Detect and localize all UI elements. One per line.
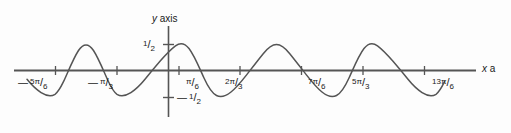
x-tick-6-numerator: 13π (432, 77, 446, 86)
x-tick-1-numerator: π (100, 77, 106, 86)
x-tick-label-13pi-6: 13π/6 (432, 77, 454, 88)
x-tick-5-denominator: 3 (365, 82, 369, 91)
x-tick-4-numerator: 7π (308, 77, 318, 86)
x-tick-label-5pi-3: 5π/3 (352, 77, 369, 88)
sine-wave-figure: y axis x a 1/2 — 1/2 — 5π/6 — π/3 π/6 2π… (0, 0, 511, 133)
y-tick-label-positive-half: 1/2 (143, 39, 155, 50)
y-tick-positive-numerator: 1 (143, 39, 147, 48)
x-tick-label-7pi-6: 7π/6 (308, 77, 325, 88)
y-tick-label-negative-half: — 1/2 (177, 92, 201, 103)
x-tick-6-denominator: 6 (449, 82, 453, 91)
x-tick-2-numerator: π (186, 77, 192, 86)
x-tick-label-2pi-3: 2π/3 (225, 77, 242, 88)
x-tick-label-minus-pi-3: — π/3 (88, 77, 113, 88)
y-axis-title-text: axis (157, 13, 178, 24)
x-axis-title-text: a (487, 63, 495, 74)
y-tick-negative-sign: — (177, 92, 187, 103)
x-tick-0-denominator: 6 (43, 82, 47, 91)
x-axis-title: x a (482, 64, 495, 74)
plot-canvas (0, 0, 511, 133)
y-tick-positive-denominator: 2 (151, 44, 155, 53)
x-tick-1-sign: — (88, 77, 98, 88)
x-tick-2-denominator: 6 (195, 82, 199, 91)
x-tick-0-sign: — (18, 77, 28, 88)
x-tick-label-pi-6: π/6 (186, 77, 199, 88)
x-tick-5-numerator: 5π (352, 77, 362, 86)
x-tick-0-numerator: 5π (30, 77, 40, 86)
x-tick-4-denominator: 6 (321, 82, 325, 91)
y-tick-negative-numerator: 1 (189, 92, 193, 101)
x-tick-label-minus-5pi-6: — 5π/6 (18, 77, 47, 88)
x-tick-3-denominator: 3 (238, 82, 242, 91)
x-tick-3-numerator: 2π (225, 77, 235, 86)
y-tick-negative-denominator: 2 (197, 97, 201, 106)
y-axis-title: y axis (152, 14, 178, 24)
x-tick-1-denominator: 3 (109, 82, 113, 91)
